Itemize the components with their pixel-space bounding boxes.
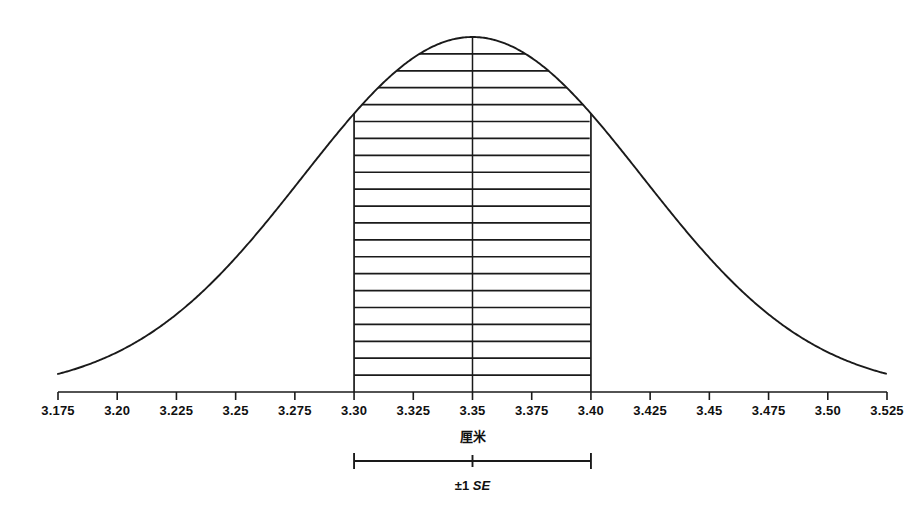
x-axis-tick-label: 3.20 [104,403,130,418]
x-axis-tick-label: 3.50 [815,403,841,418]
x-axis-tick-label: 3.375 [515,403,549,418]
x-axis-tick-label: 3.325 [397,403,431,418]
se-statistic: SE [473,478,490,493]
x-axis-tick-label: 3.40 [578,403,604,418]
x-axis-tick-label: 3.30 [341,403,367,418]
x-axis-tick-label: 3.525 [870,403,904,418]
x-axis-tick-label: 3.425 [633,403,667,418]
x-axis-tick-label: 3.25 [223,403,249,418]
se-bracket-label: ±1 SE [455,478,490,493]
x-axis-title: 厘米 [460,426,486,445]
normal-distribution-chart: 3.1753.203.2253.253.2753.303.3253.353.37… [0,0,923,517]
x-axis-tick-label: 3.35 [459,403,485,418]
x-axis-tick-label: 3.475 [752,403,786,418]
se-bracket [354,453,591,469]
x-axis-tick-label: 3.225 [160,403,194,418]
se-prefix: ±1 [455,478,469,493]
x-axis-tick-label: 3.275 [278,403,312,418]
x-axis-ticks [58,392,887,400]
x-axis-tick-label: 3.45 [696,403,722,418]
x-axis-tick-label: 3.175 [41,403,75,418]
